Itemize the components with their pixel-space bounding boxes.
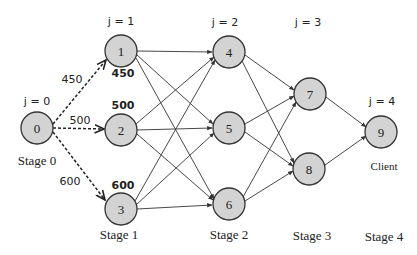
edge-weight-0-3: 600 xyxy=(60,175,81,188)
node-9: 9 xyxy=(365,116,397,148)
stage2-stage3-edges xyxy=(242,55,296,201)
svg-text:7: 7 xyxy=(307,87,314,102)
edge-0-3 xyxy=(53,132,105,200)
edge-6-7 xyxy=(243,102,296,197)
node-4: 4 xyxy=(213,36,245,68)
edge-0-2 xyxy=(53,128,104,129)
edge-5-8 xyxy=(245,132,293,166)
node-6: 6 xyxy=(213,188,245,220)
network-diagram: 0 1 2 3 4 5 6 7 8 9 450 500 600 450 500 … xyxy=(0,0,417,255)
j-label-4: j = 4 xyxy=(368,95,395,108)
edge-weight-0-1: 450 xyxy=(62,73,83,86)
svg-text:6: 6 xyxy=(226,197,233,212)
stage3-stage4-edges xyxy=(325,97,366,165)
svg-text:1: 1 xyxy=(118,44,125,59)
edge-5-7 xyxy=(245,96,294,124)
stage-label-4: Stage 4 xyxy=(365,229,404,244)
edge-6-8 xyxy=(245,171,293,201)
svg-text:4: 4 xyxy=(226,45,233,60)
svg-text:2: 2 xyxy=(118,123,125,138)
stage1-stage2-edges xyxy=(135,51,215,209)
node-0: 0 xyxy=(21,112,53,144)
stage-label-0: Stage 0 xyxy=(18,153,57,168)
j-label-0: j = 0 xyxy=(23,95,50,108)
edge-4-7 xyxy=(245,55,294,90)
edge-1-4 xyxy=(137,51,212,52)
svg-text:9: 9 xyxy=(378,125,385,140)
node-3: 3 xyxy=(105,193,137,225)
node-1: 1 xyxy=(105,35,137,67)
svg-text:0: 0 xyxy=(34,121,41,136)
capacity-node-1: 450 xyxy=(112,67,135,80)
node-5: 5 xyxy=(213,112,245,144)
j-label-1: j = 1 xyxy=(107,15,134,28)
stage-label-2: Stage 2 xyxy=(210,227,249,242)
svg-text:5: 5 xyxy=(226,121,233,136)
svg-text:3: 3 xyxy=(118,202,125,217)
edge-4-8 xyxy=(242,61,294,163)
node-7: 7 xyxy=(294,78,326,110)
stage-label-3: Stage 3 xyxy=(293,228,332,243)
node-2: 2 xyxy=(105,114,137,146)
capacity-node-2: 500 xyxy=(112,99,135,112)
svg-text:8: 8 xyxy=(306,162,313,177)
edge-weight-0-2: 500 xyxy=(70,114,91,127)
edge-7-9 xyxy=(326,97,366,127)
edge-8-9 xyxy=(325,136,366,165)
capacity-node-3: 600 xyxy=(112,179,135,192)
j-label-2: j = 2 xyxy=(211,16,238,29)
stage-label-1: Stage 1 xyxy=(100,227,139,242)
edge-3-6 xyxy=(137,205,212,209)
node-8: 8 xyxy=(293,153,325,185)
j-label-3: j = 3 xyxy=(294,16,321,29)
client-label: Client xyxy=(371,160,398,172)
